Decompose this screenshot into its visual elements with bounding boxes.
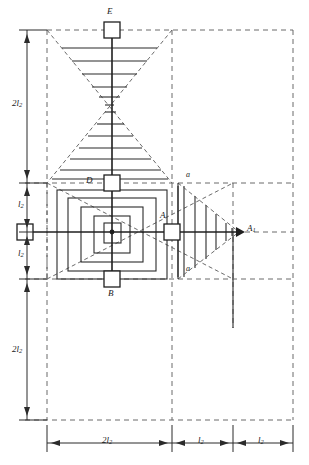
hdim-arrow-a-l: [51, 440, 60, 446]
vdim-label-3-sub: 2: [21, 251, 24, 258]
hdim-arrow-c-l: [237, 440, 246, 446]
node-label-A1: A1: [247, 224, 256, 234]
node-box-B: [104, 271, 120, 287]
horizontal-dimension-chain: [47, 425, 293, 452]
node-label-A: A: [160, 211, 166, 220]
node-label-E: E: [107, 7, 113, 16]
hdim-label-3: l2: [258, 436, 264, 446]
figure-canvas: E D A B A1 a a 2l2 l2 l2 2l2 2l2 l2 l2: [0, 0, 309, 465]
hdim-arrow-b-r: [220, 440, 229, 446]
hdim-arrow-c-r: [280, 440, 289, 446]
section-mark-upper: a: [186, 171, 190, 179]
node-box-E: [104, 22, 120, 38]
hdim-label-1: 2l2: [102, 436, 112, 446]
hdim-label-2: l2: [198, 436, 204, 446]
vdim-arrow-b-top: [24, 187, 30, 196]
vdim-label-2-sub: 2: [21, 202, 24, 209]
lower-triangle-hatch: [52, 112, 168, 179]
center-diamond-diagonals: [47, 183, 233, 279]
hdim-label-2-sub: 2: [201, 438, 204, 445]
hdim-arrow-a-r: [159, 440, 168, 446]
vdim-label-1: 2l2: [12, 99, 22, 109]
vdim-arrow-d-bot: [24, 407, 30, 416]
hdim-label-1-base: 2l: [102, 435, 109, 445]
node-label-B: B: [108, 289, 114, 298]
vdim-arrow-a-top: [24, 34, 30, 43]
node-box-D: [104, 175, 120, 191]
vdim-label-4-sub: 2: [19, 347, 22, 354]
node-label-A1-sub: 1: [253, 226, 256, 233]
vdim-label-1-sub: 2: [19, 101, 22, 108]
right-tri-edge-top: [178, 183, 239, 232]
axis-arrowhead-right: [236, 227, 245, 237]
node-box-A: [164, 224, 180, 240]
hdim-label-1-sub: 2: [109, 438, 112, 445]
node-label-D: D: [86, 176, 93, 185]
vdim-label-2: l2: [18, 200, 24, 210]
vdim-arrow-c-bot: [24, 266, 30, 275]
upper-triangle-hatch: [62, 48, 157, 105]
diagram-svg: [0, 0, 309, 465]
section-mark-lower: a: [186, 265, 190, 273]
hdim-label-3-sub: 2: [261, 438, 264, 445]
center-node-dot: [110, 230, 115, 235]
vdim-label-4: 2l2: [12, 345, 22, 355]
vdim-arrow-a-bot: [24, 170, 30, 179]
vdim-label-3: l2: [18, 249, 24, 259]
vdim-label-1-base: 2l: [12, 98, 19, 108]
hourglass-diagonals: [47, 30, 172, 183]
vdim-label-4-base: 2l: [12, 344, 19, 354]
hdim-arrow-b-l: [176, 440, 185, 446]
vdim-arrow-d-top: [24, 283, 30, 292]
